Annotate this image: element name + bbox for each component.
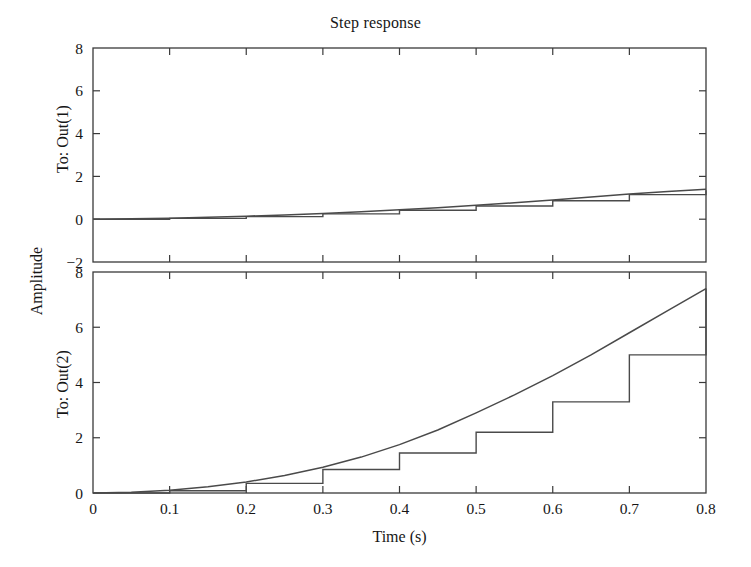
subplot-out2: 02468 00.10.20.30.40.50.60.70.8 xyxy=(75,264,716,518)
x-tick-label: 0.1 xyxy=(160,500,179,517)
x-tick-label: 0.4 xyxy=(390,500,410,517)
x-tick-label: 0.2 xyxy=(237,500,256,517)
x-tick-label: 0.5 xyxy=(466,500,486,517)
page-title: Step response xyxy=(0,14,751,32)
data-series-out1 xyxy=(93,189,706,219)
y-tick-label: 2 xyxy=(75,429,83,446)
x-tick-label: 0 xyxy=(89,500,97,517)
x-tick-label: 0.3 xyxy=(313,500,333,517)
x-tick-label: 0.6 xyxy=(543,500,563,517)
figure-step-response: Step response Amplitude To: Out(1) To: O… xyxy=(0,0,751,567)
y-tick-label: 0 xyxy=(75,485,83,502)
series-discrete xyxy=(93,289,706,493)
plot-canvas: −202468 02468 00.10.20.30.40.50.60.70.8 xyxy=(0,0,751,567)
y-tick-label: 0 xyxy=(75,211,83,228)
tick-marks-out1 xyxy=(93,48,706,262)
x-axis-label-time: Time (s) xyxy=(93,528,706,546)
y-axis-label-amplitude: Amplitude xyxy=(28,226,46,336)
y-tick-label: 8 xyxy=(75,40,83,57)
y-tick-label: 6 xyxy=(75,82,83,99)
y-tick-label: 8 xyxy=(75,264,83,281)
data-series-out2 xyxy=(93,289,706,493)
y-tick-label: 6 xyxy=(75,319,83,336)
y-tick-label: 4 xyxy=(75,125,83,142)
subplot-out1: −202468 xyxy=(67,40,707,271)
plot-frame-out1 xyxy=(93,48,706,262)
y-tick-labels-out2: 02468 xyxy=(75,264,83,502)
x-tick-label: 0.8 xyxy=(696,500,716,517)
x-tick-label: 0.7 xyxy=(620,500,640,517)
row-label-out1: To: Out(1) xyxy=(54,84,72,194)
y-tick-label: 4 xyxy=(75,374,83,391)
series-continuous xyxy=(93,189,706,219)
y-tick-label: 2 xyxy=(75,168,83,185)
row-label-out2: To: Out(2) xyxy=(54,329,72,439)
x-tick-labels: 00.10.20.30.40.50.60.70.8 xyxy=(89,500,716,517)
